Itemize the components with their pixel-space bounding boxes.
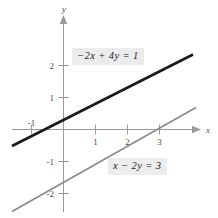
line-neg2x-plus-4y-equals-1 (12, 55, 193, 147)
x-axis-arrow-icon (192, 126, 201, 133)
x-axis-label: x (205, 125, 210, 135)
linear-equations-graph-figure: -1 1 2 3 2 1 -1 -2 x y −2x + 4y = 1 x − … (0, 0, 218, 218)
y-tick-label-neg1: -1 (47, 157, 55, 167)
y-tick-label-1: 1 (50, 93, 55, 103)
x-tick-label-1: 1 (93, 137, 98, 147)
x-tick-label-3: 3 (157, 137, 162, 147)
y-axis-label: y (61, 4, 66, 14)
coordinate-plane: -1 1 2 3 2 1 -1 -2 x y (0, 0, 218, 218)
y-tick-label-2: 2 (50, 61, 55, 71)
equation-label-2: x − 2y = 3 (108, 158, 167, 175)
equation-label-1: −2x + 4y = 1 (72, 48, 144, 65)
y-axis-arrow-icon (60, 15, 67, 24)
x-tick-label-neg1: -1 (28, 118, 36, 128)
line-x-minus-2y-equals-3 (12, 108, 196, 212)
